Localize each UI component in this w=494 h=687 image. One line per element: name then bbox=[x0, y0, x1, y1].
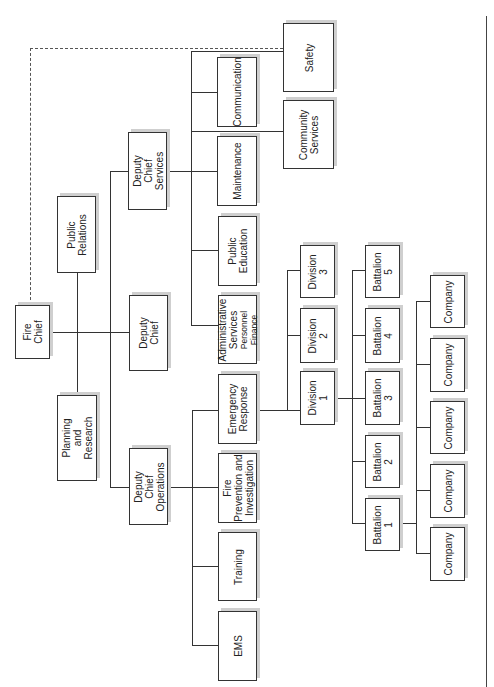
connector bbox=[287, 270, 288, 411]
node-label: Division 3 bbox=[307, 254, 329, 289]
node-battalion-3: Battalion 3 bbox=[365, 371, 400, 425]
connector bbox=[77, 273, 78, 395]
fire-department-org-chart: Fire Chief Public Relations Planning and… bbox=[0, 0, 494, 687]
node-label: Planning and Research bbox=[61, 417, 94, 460]
node-company: Company bbox=[430, 527, 465, 581]
connector bbox=[191, 92, 217, 93]
connector bbox=[191, 51, 283, 52]
node-label: Public Education bbox=[227, 229, 249, 273]
node-label: Company bbox=[442, 406, 453, 449]
node-label: Battalion 3 bbox=[372, 379, 394, 418]
node-deputy-chief: Deputy Chief bbox=[129, 295, 168, 371]
admin-title: Administrative Services bbox=[217, 298, 239, 361]
node-company: Company bbox=[430, 464, 465, 518]
connector bbox=[416, 427, 430, 428]
node-label: Company bbox=[442, 533, 453, 576]
node-label: Battalion 1 bbox=[372, 505, 394, 544]
node-label: EMS bbox=[232, 635, 243, 657]
node-battalion-1: Battalion 1 bbox=[365, 498, 400, 551]
node-division-1: Division 1 bbox=[300, 371, 335, 425]
node-label: Public Relations bbox=[66, 214, 88, 256]
connector bbox=[257, 410, 300, 411]
node-deputy-chief-operations: Deputy Chief Operations bbox=[129, 448, 168, 525]
connector bbox=[191, 325, 218, 326]
connector bbox=[192, 410, 193, 646]
connector bbox=[167, 171, 217, 172]
node-battalion-4: Battalion 4 bbox=[365, 308, 400, 363]
node-label: Division 1 bbox=[307, 380, 329, 415]
node-label: Division 2 bbox=[307, 318, 329, 353]
node-planning-research: Planning and Research bbox=[57, 395, 97, 481]
connector bbox=[400, 523, 416, 524]
node-public-relations: Public Relations bbox=[57, 196, 96, 273]
connector bbox=[192, 410, 218, 411]
connector bbox=[352, 523, 365, 524]
connector bbox=[416, 301, 430, 302]
node-label: Fire Prevention and Investigation bbox=[221, 454, 254, 521]
connector bbox=[110, 171, 111, 488]
connector bbox=[110, 171, 128, 172]
connector bbox=[287, 270, 300, 271]
connector bbox=[352, 270, 353, 523]
node-training: Training bbox=[218, 532, 257, 601]
connector bbox=[110, 487, 129, 488]
admin-subtitle: Personnel Finance bbox=[239, 298, 259, 361]
node-label: Company bbox=[442, 280, 453, 323]
node-fire-chief: Fire Chief bbox=[15, 305, 50, 359]
node-deputy-chief-services: Deputy Chief Services bbox=[128, 132, 167, 210]
node-ems: EMS bbox=[218, 611, 257, 681]
node-company: Company bbox=[430, 401, 465, 454]
dashed-connector-vertical bbox=[30, 48, 31, 305]
connector bbox=[416, 364, 430, 365]
node-battalion-5: Battalion 5 bbox=[365, 245, 400, 298]
node-label: Deputy Chief Services bbox=[131, 152, 164, 190]
node-label: Safety bbox=[303, 43, 314, 71]
node-public-education: Public Education bbox=[218, 216, 257, 286]
connector bbox=[287, 335, 300, 336]
node-company: Company bbox=[430, 275, 465, 328]
node-label: Battalion 2 bbox=[372, 442, 394, 481]
connector bbox=[416, 553, 430, 554]
node-label: Communication bbox=[232, 57, 243, 126]
node-company: Company bbox=[430, 338, 465, 392]
connector bbox=[192, 566, 218, 567]
node-label: Deputy Chief Operations bbox=[132, 462, 165, 511]
node-battalion-2: Battalion 2 bbox=[365, 435, 400, 488]
connector bbox=[192, 645, 218, 646]
node-label: Company bbox=[442, 344, 453, 387]
node-label: Emergency Response bbox=[227, 384, 249, 435]
node-communication: Communication bbox=[217, 57, 257, 127]
node-label: Company bbox=[442, 470, 453, 513]
node-division-2: Division 2 bbox=[300, 308, 335, 363]
node-label: Community Services bbox=[298, 109, 320, 160]
node-label: Administrative ServicesPersonnel Finance bbox=[217, 298, 259, 361]
node-division-3: Division 3 bbox=[300, 245, 335, 298]
connector bbox=[191, 131, 283, 132]
node-label: Training bbox=[232, 549, 243, 585]
node-label: Maintenance bbox=[232, 142, 243, 199]
dashed-connector-horizontal bbox=[30, 48, 283, 49]
page-rule bbox=[486, 16, 487, 687]
node-label: Deputy Chief bbox=[138, 317, 160, 349]
connector bbox=[49, 332, 129, 333]
connector bbox=[191, 250, 218, 251]
node-fire-prevention: Fire Prevention and Investigation bbox=[218, 453, 257, 523]
connector bbox=[352, 335, 365, 336]
node-emergency-response: Emergency Response bbox=[218, 374, 257, 444]
node-administrative-services: Administrative ServicesPersonnel Finance bbox=[218, 295, 257, 364]
node-safety: Safety bbox=[283, 23, 334, 92]
node-label: Fire Chief bbox=[22, 320, 44, 343]
node-label: Battalion 4 bbox=[372, 316, 394, 355]
connector bbox=[168, 487, 218, 488]
connector bbox=[416, 490, 430, 491]
node-maintenance: Maintenance bbox=[217, 136, 257, 206]
connector bbox=[352, 461, 365, 462]
node-community-services: Community Services bbox=[283, 100, 334, 169]
node-label: Battalion 5 bbox=[372, 252, 394, 291]
connector bbox=[335, 398, 365, 399]
connector bbox=[352, 270, 365, 271]
